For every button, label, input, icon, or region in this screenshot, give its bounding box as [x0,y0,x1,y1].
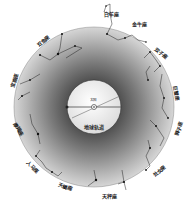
label-virgo: 处女座 [151,164,168,180]
label-leo: 狮子座 [173,121,185,138]
orbit-label: 地球轨道 [84,124,104,131]
earth-marker-left [66,106,69,109]
sun-icon [92,105,97,110]
label-aries: 白羊座 [104,11,119,18]
label-libra: 天秤座 [102,193,117,200]
sun-label: 太阳 [90,97,97,102]
label-taurus: 金牛座 [131,21,147,28]
zodiac-chart: 太阳 地球轨道 [0,0,188,205]
